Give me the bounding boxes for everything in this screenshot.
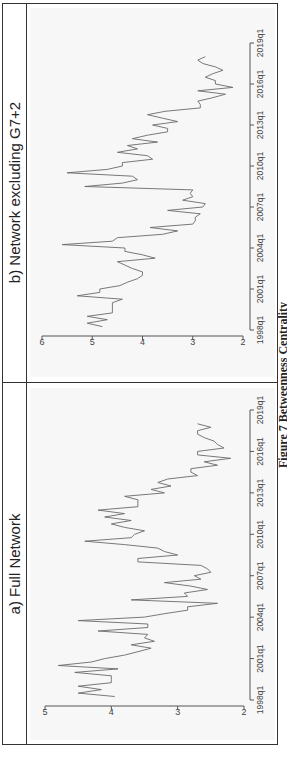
data-line: [58, 424, 230, 697]
y-tick-label: 4: [140, 337, 145, 347]
x-tick-label: 2007q1: [255, 561, 265, 590]
y-tick-label: 4: [109, 707, 114, 717]
data-line: [62, 57, 233, 327]
chart-canvas: 23451998q12001q12004q12007q12010q12013q1…: [0, 0, 287, 758]
x-tick-label: 2007q1: [255, 193, 265, 222]
panel-a-full-network: 23451998q12001q12004q12007q12010q12013q1…: [42, 396, 265, 718]
x-tick-label: 2004q1: [255, 603, 265, 632]
x-tick-label: 2001q1: [255, 644, 265, 673]
x-tick-label: 2013q1: [255, 111, 265, 140]
y-tick-label: 2: [240, 337, 245, 347]
y-tick-label: 5: [42, 707, 47, 717]
y-tick-label: 2: [241, 707, 246, 717]
x-tick-label: 2016q1: [255, 70, 265, 99]
x-tick-label: 2013q1: [255, 478, 265, 507]
panel-b-network-excluding-g7: 234561998q12001q12004q12007q12010q12013q…: [39, 29, 265, 348]
x-tick-label: 2019q1: [255, 396, 265, 425]
y-tick-label: 5: [90, 337, 95, 347]
x-tick-label: 2010q1: [255, 520, 265, 549]
x-tick-label: 1998q1: [255, 316, 265, 345]
x-tick-label: 2019q1: [255, 29, 265, 58]
y-tick-label: 6: [39, 337, 44, 347]
x-tick-label: 2010q1: [255, 152, 265, 181]
figure-caption: Figure 7 Betweenness Centrality: [276, 302, 287, 468]
y-tick-label: 3: [190, 337, 195, 347]
x-tick-label: 1998q1: [255, 686, 265, 715]
x-tick-label: 2016q1: [255, 437, 265, 466]
y-tick-label: 3: [175, 707, 180, 717]
x-tick-label: 2004q1: [255, 234, 265, 263]
x-tick-label: 2001q1: [255, 275, 265, 304]
figure-stage: a) Full Network b) Network excluding G7+…: [0, 0, 287, 758]
